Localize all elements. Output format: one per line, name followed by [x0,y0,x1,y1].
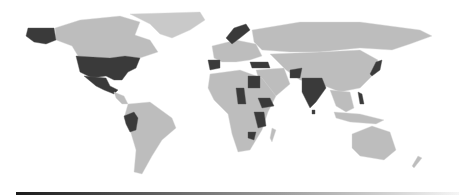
region-canada[interactable] [55,16,158,58]
region-egypt[interactable] [248,76,260,88]
region-india[interactable] [302,78,326,108]
legend-gradient-bar [16,192,459,195]
region-new-zealand[interactable] [412,156,422,168]
region-turkey[interactable] [250,62,270,68]
region-indonesia[interactable] [334,112,384,124]
region-peru[interactable] [124,112,138,132]
region-madagascar[interactable] [270,128,276,142]
region-afghanistan[interactable] [290,68,302,78]
region-australia[interactable] [352,126,396,160]
region-sri-lanka[interactable] [312,110,315,114]
region-spain[interactable] [208,60,220,70]
region-greenland[interactable] [130,12,205,38]
region-europe[interactable] [212,40,262,62]
world-map [0,0,459,180]
region-central-america[interactable] [114,92,128,104]
region-southeast-asia[interactable] [330,90,354,112]
region-philippines[interactable] [358,92,364,104]
region-alaska[interactable] [26,28,56,44]
region-russia[interactable] [252,22,432,52]
region-chad[interactable] [236,88,246,104]
